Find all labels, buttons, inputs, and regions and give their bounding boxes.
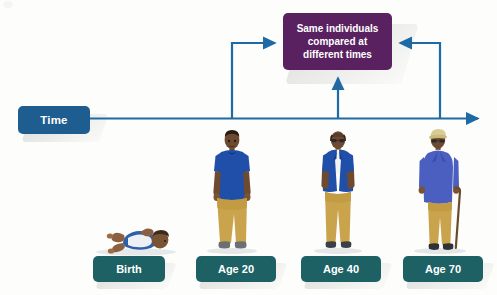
flat-cap-icon	[429, 129, 447, 139]
middle-aged-adult-standing-icon	[314, 131, 362, 254]
walking-cane-icon	[456, 188, 460, 248]
diagram-canvas: Time Same individuals compared at differ…	[0, 0, 497, 295]
connector-age20	[232, 43, 275, 118]
scan-artifact	[3, 1, 13, 8]
infant-lying-icon	[96, 229, 176, 256]
stage-label-age40-text: Age 40	[323, 263, 359, 275]
time-axis-label-text: Time	[40, 114, 67, 126]
stage-label-age20-text: Age 20	[218, 263, 254, 275]
stage-label-birth-text: Birth	[116, 263, 142, 275]
eyeglasses-icon	[432, 139, 445, 142]
callout-line-1: Same individuals	[297, 22, 379, 35]
time-axis-label-box: Time	[18, 106, 90, 134]
callout-line-3: different times	[297, 48, 379, 61]
stage-label-age20: Age 20	[196, 256, 276, 282]
callout-line-2: compared at	[297, 35, 379, 48]
callout-box: Same individuals compared at different t…	[283, 13, 392, 70]
stage-label-age70: Age 70	[403, 256, 483, 282]
stage-label-age40: Age 40	[301, 256, 381, 282]
stage-label-birth: Birth	[93, 256, 165, 282]
figure-illustrations	[0, 0, 497, 295]
connector-lines	[0, 0, 497, 295]
eyeglasses-icon	[332, 139, 345, 142]
stage-label-age70-text: Age 70	[425, 263, 461, 275]
elderly-adult-with-cane-icon	[414, 129, 466, 254]
young-adult-standing-icon	[207, 130, 257, 254]
